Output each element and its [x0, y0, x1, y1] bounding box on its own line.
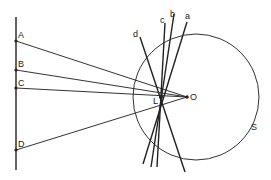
label-d: D	[18, 139, 25, 149]
line-b	[151, 14, 174, 167]
point-l	[159, 95, 163, 99]
label-line-c: c	[160, 15, 165, 25]
label-l: L	[153, 96, 158, 106]
label-circle-s: S	[251, 122, 257, 132]
label-a: A	[18, 30, 24, 40]
ray-diagram: A B C D O L a b c d S	[0, 0, 271, 180]
label-line-d: d	[133, 29, 138, 39]
point-o	[185, 95, 189, 99]
label-line-b: b	[170, 9, 175, 19]
label-b: B	[18, 59, 24, 69]
line-a	[143, 22, 187, 164]
label-c: C	[18, 78, 25, 88]
label-o: O	[190, 92, 197, 102]
label-line-a: a	[185, 11, 190, 21]
